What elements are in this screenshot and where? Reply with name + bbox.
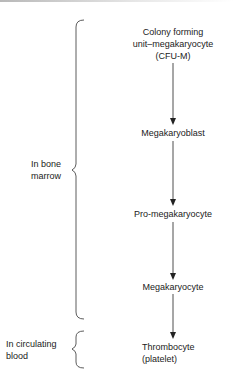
- arrow-promegakaryocyte-to-megakaryocyte: [170, 222, 176, 280]
- node-pro-megakaryocyte: Pro-megakaryocyte: [118, 208, 228, 220]
- group-label-circulating-blood: In circulating blood: [6, 338, 57, 362]
- arrow-cfu-to-megakaryoblast: [170, 63, 176, 125]
- node-megakaryocyte: Megakaryocyte: [118, 281, 228, 293]
- node-cfu-m: Colony forming unit–megakaryocyte (CFU-M…: [118, 26, 228, 62]
- node-megakaryoblast: Megakaryoblast: [118, 127, 228, 139]
- group-label-bone-marrow: In bone marrow: [31, 158, 61, 182]
- node-thrombocyte: Thrombocyte (platelet): [142, 341, 222, 365]
- brace-bone-marrow-icon: [72, 20, 84, 319]
- arrow-megakaryoblast-to-promegakaryocyte: [170, 141, 176, 206]
- arrow-megakaryocyte-to-thrombocyte: [170, 294, 176, 339]
- brace-circulating-blood-icon: [72, 331, 84, 368]
